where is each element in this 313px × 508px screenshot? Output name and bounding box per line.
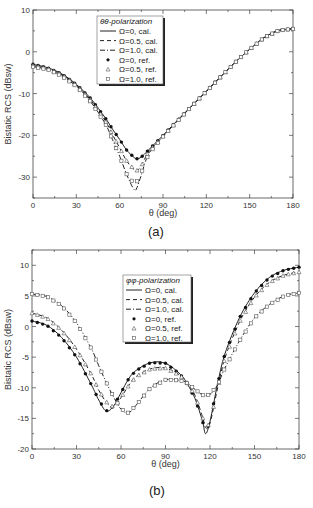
- marker-square: [153, 384, 156, 387]
- marker-circle: [233, 327, 236, 330]
- marker-circle: [223, 355, 226, 358]
- marker-square: [143, 394, 146, 397]
- marker-circle: [57, 333, 60, 336]
- marker-square: [130, 179, 133, 182]
- marker-circle: [30, 319, 33, 322]
- marker-square: [47, 68, 50, 71]
- x-tick-label: 60: [115, 201, 124, 210]
- marker-circle: [94, 393, 97, 396]
- marker-square: [89, 100, 92, 103]
- marker-triangle: [35, 313, 39, 317]
- marker-square: [286, 28, 289, 31]
- marker-square: [164, 378, 167, 381]
- marker-triangle: [78, 353, 82, 357]
- marker-square: [203, 92, 206, 95]
- marker-triangle: [140, 162, 144, 166]
- marker-square: [207, 393, 210, 396]
- marker-circle: [121, 388, 124, 391]
- marker-square: [191, 386, 194, 389]
- marker-circle: [265, 278, 268, 281]
- y-axis-label: Bistatic RCS (dBsw): [3, 63, 13, 144]
- marker-square: [94, 107, 97, 110]
- marker-square: [212, 388, 215, 391]
- marker-circle: [137, 367, 140, 370]
- marker-square: [109, 135, 112, 138]
- marker-square: [68, 80, 71, 83]
- legend-entry: Ω=0, cal.: [119, 27, 151, 36]
- marker-square: [159, 381, 162, 384]
- legend-entry: Ω=0.5, cal.: [119, 37, 158, 46]
- marker-square: [172, 124, 175, 127]
- marker-square: [41, 294, 44, 297]
- marker-circle: [244, 306, 247, 309]
- marker-square: [196, 390, 199, 393]
- marker-circle: [255, 289, 258, 292]
- marker-triangle: [130, 165, 134, 169]
- marker-square: [265, 305, 268, 308]
- marker-square: [250, 46, 253, 49]
- y-tick-label: -5: [22, 353, 30, 362]
- marker-square: [151, 148, 154, 151]
- legend: φφ-polarizationΩ=0, cal.Ω=0.5, cal.Ω=1.0…: [123, 275, 193, 344]
- marker-circle: [260, 284, 263, 287]
- marker-triangle: [119, 149, 123, 153]
- marker-square: [115, 147, 118, 150]
- caption-b: (b): [149, 483, 165, 498]
- marker-square: [291, 27, 294, 30]
- marker-circle: [164, 362, 167, 365]
- x-tick-label: 120: [200, 201, 214, 210]
- x-tick-label: 180: [292, 452, 306, 461]
- marker-circle: [217, 377, 220, 380]
- legend-entry: Ω=1.0, ref.: [145, 334, 183, 343]
- marker-triangle: [131, 378, 135, 382]
- marker-circle: [62, 339, 65, 342]
- marker-square: [31, 65, 34, 68]
- marker-square: [208, 86, 211, 89]
- marker-square: [73, 84, 76, 87]
- marker-triangle: [83, 362, 87, 366]
- legend-entry: Ω=1.0, ref.: [119, 75, 157, 84]
- marker-square: [141, 169, 144, 172]
- marker-triangle: [297, 270, 301, 274]
- marker-triangle: [249, 301, 253, 305]
- y-tick-label: 10: [20, 261, 29, 270]
- legend-entry: Ω=0, ref.: [119, 56, 150, 65]
- x-tick-label: 30: [72, 452, 81, 461]
- marker-square: [276, 298, 279, 301]
- marker-triangle: [281, 274, 285, 278]
- marker-square: [234, 60, 237, 63]
- marker-square: [245, 51, 248, 54]
- marker-circle: [292, 267, 295, 270]
- marker-square: [224, 71, 227, 74]
- marker-square: [111, 392, 114, 395]
- marker-square: [105, 382, 108, 385]
- marker-circle: [130, 154, 133, 157]
- plot-a: 0306090120150180-30-20-10010θ (deg)Bista…: [3, 6, 300, 218]
- marker-square: [62, 307, 65, 310]
- marker-square: [271, 32, 274, 35]
- marker-triangle: [125, 159, 129, 163]
- marker-square: [73, 319, 76, 322]
- marker-square: [146, 156, 149, 159]
- marker-square: [239, 338, 242, 341]
- x-tick-label: 150: [248, 452, 262, 461]
- marker-triangle: [158, 366, 162, 370]
- marker-circle: [36, 321, 39, 324]
- marker-circle: [158, 361, 161, 364]
- marker-circle: [105, 409, 108, 412]
- marker-square: [30, 292, 33, 295]
- marker-triangle: [67, 338, 71, 342]
- marker-square: [219, 76, 222, 79]
- marker-square: [228, 358, 231, 361]
- marker-triangle: [153, 367, 157, 371]
- marker-circle: [153, 361, 156, 364]
- marker-square: [89, 346, 92, 349]
- marker-square: [100, 370, 103, 373]
- x-tick-label: 0: [31, 201, 36, 210]
- y-tick-label: -15: [17, 414, 29, 423]
- marker-square: [125, 173, 128, 176]
- marker-square: [175, 379, 178, 382]
- marker-square: [120, 159, 123, 162]
- x-axis-label: θ (deg): [149, 208, 178, 218]
- legend-entry: Ω=1.0, cal.: [145, 305, 184, 314]
